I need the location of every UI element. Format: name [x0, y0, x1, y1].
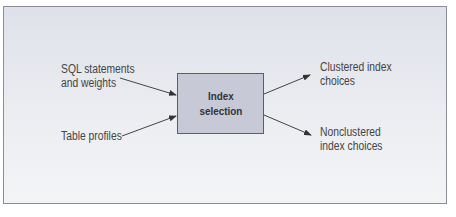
output-clustered-index: Clustered index choices [320, 60, 392, 88]
input-sql-statements: SQL statements and weights [61, 62, 135, 90]
input-table-profiles: Table profiles [61, 129, 122, 143]
output-nonclustered-index: Nonclustered index choices [320, 125, 383, 153]
arrow-box-to-nonclustered [264, 115, 311, 135]
arrow-profiles-to-box [122, 116, 176, 136]
arrow-box-to-clustered [264, 75, 310, 94]
index-selection-box: Index selection [177, 73, 264, 134]
